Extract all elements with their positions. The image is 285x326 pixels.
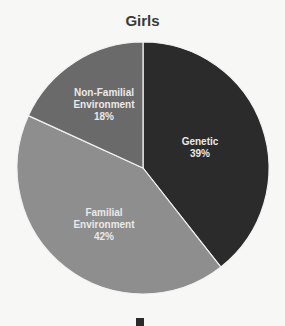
pie-chart: [0, 0, 285, 326]
label-nonfamilial-value: 18%: [73, 111, 134, 123]
label-genetic: Genetic 39%: [182, 136, 219, 160]
label-genetic-name: Genetic: [182, 136, 219, 148]
label-nonfamilial-name-2: Environment: [73, 99, 134, 111]
label-non-familial-environment: Non-Familial Environment 18%: [73, 87, 134, 123]
label-familial-environment: Familial Environment 42%: [73, 207, 134, 243]
label-familial-name-1: Familial: [73, 207, 134, 219]
label-nonfamilial-name-1: Non-Familial: [73, 87, 134, 99]
label-familial-name-2: Environment: [73, 219, 134, 231]
label-familial-value: 42%: [73, 231, 134, 243]
next-chart-title-fragment: [136, 318, 144, 326]
label-genetic-value: 39%: [182, 148, 219, 160]
